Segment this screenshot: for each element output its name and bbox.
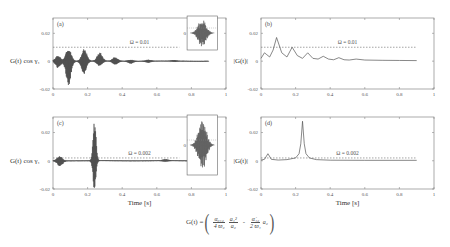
y-axis-label: |G(t)| [234,157,248,165]
x-tick-label: 0.6 [362,92,369,97]
x-tick-label: 0.4 [119,92,126,97]
inset-zero-label: 0 [184,31,187,36]
y-axis-label: G(t) cos γ₁ [10,57,40,65]
formula-g-of-t: G(t) = ( α₀₁₂ 4 ϖ₂ a₁² a₂ - α̇₁₂ 2 ϖ₁ a₂… [186,210,276,234]
fraction-3-den: 2 ϖ₁ [250,223,261,229]
fraction-3: α̇₁₂ 2 ϖ₁ [250,216,261,229]
panel-label: (d) [265,120,272,127]
y-axis-label: G(t) cos γ₁ [10,157,40,165]
x-tick-label: 0.4 [327,192,334,197]
left-paren: ( [205,210,210,234]
fraction-3-num: α̇₁₂ [251,216,260,223]
fraction-2: a₁² a₂ [229,216,238,229]
panel-c: 00.20.40.60.81-0.0200.02G(t) cos γ₁(c)Ti… [10,115,228,207]
y-tick-label: -0.02 [248,87,259,92]
x-tick-label: 0.2 [292,192,299,197]
x-tick-label: 0 [52,92,55,97]
x-tick-label: 0.4 [327,92,334,97]
y-tick-label: -0.02 [40,87,51,92]
x-tick-label: 0.2 [84,92,91,97]
x-tick-label: 0.2 [292,92,299,97]
x-tick-label: 0.8 [188,92,195,97]
x-tick-label: 0.8 [396,92,403,97]
panel-a: 00.20.40.60.81-0.0200.02G(t) cos γ₁(a)Ω … [10,16,228,97]
fraction-1: α₀₁₂ 4 ϖ₂ [213,216,224,229]
panel-b: 00.20.40.60.81-0.0200.02|G(t)|(b)Ω = 0.0… [234,18,436,97]
x-tick-label: 0.8 [188,192,195,197]
x-tick-label: 0 [260,92,263,97]
y-tick-label: 0 [48,159,51,164]
x-axis-label: Time [s] [336,199,360,207]
x-tick-label: 0.6 [154,92,161,97]
x-tick-label: 1 [433,92,436,97]
y-tick-label: 0.02 [41,31,50,36]
formula-lhs: G(t) = [186,218,203,226]
minus-sign: - [243,218,245,226]
y-tick-label: 0 [256,59,259,64]
y-tick-label: -0.02 [40,187,51,192]
y-tick-label: 0.02 [249,130,258,135]
threshold-annotation: Ω = 0.002 [128,150,151,156]
right-paren: ) [270,210,275,234]
y-tick-label: 0 [256,159,259,164]
x-tick-label: 0.6 [154,192,161,197]
x-tick-label: 0 [52,192,55,197]
fraction-1-den: 4 ϖ₂ [214,223,225,229]
x-tick-label: 0 [260,192,263,197]
threshold-annotation: Ω = 0.01 [130,39,150,45]
y-tick-label: 0 [48,59,51,64]
panel-label: (a) [57,21,64,28]
axes-frame [261,18,434,89]
panel-label: (b) [265,21,272,28]
y-axis-label: |G(t)| [234,57,248,65]
y-tick-label: 0.02 [249,31,258,36]
fraction-1-num: α₀₁₂ [213,216,224,223]
x-tick-label: 1 [433,192,436,197]
y-tick-label: 0.02 [41,130,50,135]
panel-label: (c) [57,120,64,127]
x-tick-label: 0.8 [396,192,403,197]
threshold-annotation: Ω = 0.01 [338,39,358,45]
x-tick-label: 1 [225,92,228,97]
x-tick-label: 0.6 [362,192,369,197]
x-tick-label: 0.4 [119,192,126,197]
x-axis-label: Time [s] [128,199,152,207]
fraction-2-num: a₁² [229,216,238,223]
y-tick-label: -0.02 [248,187,259,192]
fraction-2-den: a₂ [231,223,236,229]
x-tick-label: 1 [225,192,228,197]
formula-tail: a₂ [263,219,268,225]
threshold-annotation: Ω = 0.002 [336,150,359,156]
panel-d: 00.20.40.60.81-0.0200.02|G(t)|(d)Time [s… [234,117,436,207]
x-tick-label: 0.2 [84,192,91,197]
signal-trace [53,49,209,85]
inset-zero-label: 0 [184,143,187,148]
